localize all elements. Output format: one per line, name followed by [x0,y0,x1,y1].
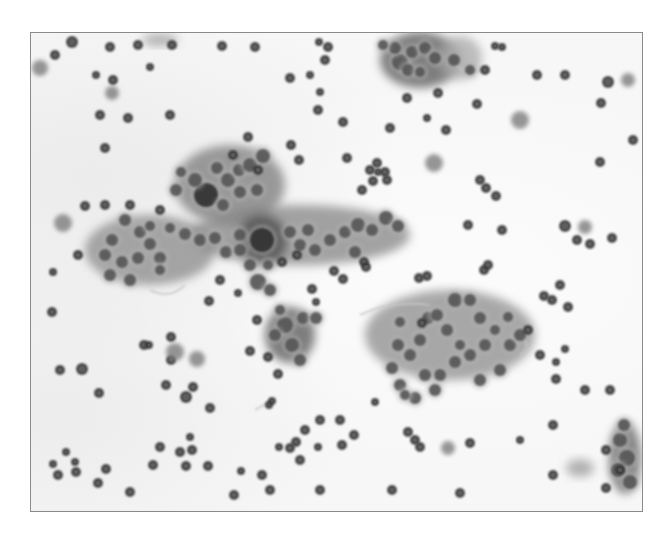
cell-center [417,276,421,280]
cell-center [599,101,603,105]
cell-center [583,388,587,392]
nucleus [155,265,165,275]
cell-center [500,228,504,232]
nucleus [455,340,465,350]
nucleus [250,228,274,252]
cell-center [69,39,75,45]
nucleus [256,149,270,163]
scattered-cell [32,60,48,76]
nucleus [448,293,462,307]
nucleus [618,419,630,431]
cell-center [564,348,566,350]
bottom-right-pale [566,459,594,477]
cell-center [316,108,320,112]
cell-center [558,283,562,287]
nucleus [194,234,206,246]
cell-center [151,463,155,467]
cell-center [425,274,429,278]
cell-center [184,464,188,468]
cell-center [309,74,311,76]
nucleus [302,224,314,236]
cell-center [148,344,150,346]
cell-center [555,361,557,363]
cell-center [256,168,260,172]
cell-center [538,353,542,357]
nucleus [310,312,322,324]
nucleus [434,369,446,381]
cell-center [168,113,172,117]
cell-center [406,430,410,434]
cell-center [604,448,608,452]
cell-center [468,441,472,445]
cell-center [562,223,568,229]
nucleus [234,229,246,241]
cell-center [388,126,392,130]
cell-center [494,194,498,198]
cell-center [618,468,622,472]
cell-center [551,473,555,477]
cell-center [385,178,389,182]
cell-center [76,253,80,257]
cell-center [551,423,555,427]
scattered-cell [105,86,119,100]
nucleus [464,294,476,306]
nucleus [234,186,246,198]
cell-center [295,253,299,257]
cell-center [170,43,174,47]
cell-center [158,208,162,212]
cell-center [526,328,530,332]
nucleus [474,374,486,386]
cell-center [58,368,62,372]
cell-center [289,143,293,147]
cell-center [108,45,112,49]
cell-center [271,400,273,402]
cell-center [375,161,379,165]
nucleus [490,325,500,335]
cell-center [56,473,60,477]
nucleus [251,184,263,196]
nucleus [294,239,306,251]
cell-center [575,238,579,242]
cell-center [52,463,54,465]
nucleus [429,384,441,396]
nucleus [119,214,131,226]
cell-center [178,450,182,454]
nucleus [170,184,182,196]
nucleus [392,339,404,351]
nucleus [211,162,223,174]
nucleus [176,167,186,177]
cell-center [240,470,242,472]
nucleus [275,305,285,315]
cell-center [413,438,417,442]
cell-center [260,473,264,477]
nucleus [392,220,404,232]
nucleus [465,65,475,75]
cell-center [383,170,387,174]
nucleus [366,224,378,236]
nucleus [431,309,443,321]
cell-center [486,263,490,267]
cell-center [519,439,521,441]
cell-center [420,321,424,325]
nucleus [217,199,229,211]
cell-center [79,366,85,372]
cell-center [191,385,195,389]
nucleus [448,54,460,66]
cell-center [610,236,614,240]
micrograph-image [0,0,669,535]
nucleus [479,339,491,351]
cell-center [338,418,342,422]
cell-center [208,406,212,410]
nucleus [429,52,441,64]
cell-center [74,461,76,463]
cell-center [237,292,239,294]
cell-center [318,488,322,492]
cell-center [255,318,259,322]
nucleus [294,354,306,366]
cell-center [103,203,107,207]
cell-center [426,117,428,119]
cell-center [418,445,422,449]
nucleus [220,246,232,258]
nucleus [269,329,281,341]
cell-center [220,44,224,48]
